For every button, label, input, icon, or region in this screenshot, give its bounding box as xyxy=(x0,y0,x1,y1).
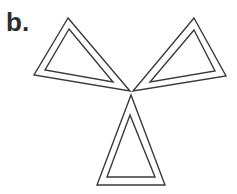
triangle-right-outer xyxy=(133,18,226,91)
triangle-bottom-inner xyxy=(107,115,155,177)
triangles-diagram xyxy=(0,0,237,194)
triangle-left-inner xyxy=(45,29,113,82)
figure-canvas: b. xyxy=(0,0,237,194)
triangle-bottom-outer xyxy=(97,95,165,185)
triangle-left-outer xyxy=(34,18,130,91)
